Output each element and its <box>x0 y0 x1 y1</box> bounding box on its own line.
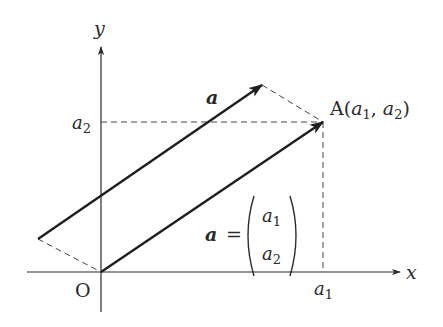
free-vector-a <box>38 85 262 239</box>
equation-top: a1 <box>262 205 281 229</box>
equation-equals: = <box>226 223 242 245</box>
vector-diagram: y x O a2 a1 A(a1, a2) a a = a1 a2 <box>0 0 443 327</box>
parallelogram-top-edge <box>262 85 323 122</box>
y-axis-label: y <box>93 17 105 39</box>
equation-lhs: a <box>205 223 217 245</box>
a1-tick-label: a1 <box>314 278 333 302</box>
a2-tick-label: a2 <box>72 112 91 136</box>
left-paren <box>248 196 254 276</box>
equation-bottom: a2 <box>262 243 281 267</box>
parallelogram-bottom-edge <box>38 239 101 272</box>
point-a-label: A(a1, a2) <box>329 97 410 122</box>
origin-label: O <box>75 279 91 301</box>
free-vector-label: a <box>206 86 218 108</box>
component-equation: a = a1 a2 <box>205 196 296 276</box>
right-paren <box>290 196 296 276</box>
x-axis-label: x <box>406 261 417 283</box>
